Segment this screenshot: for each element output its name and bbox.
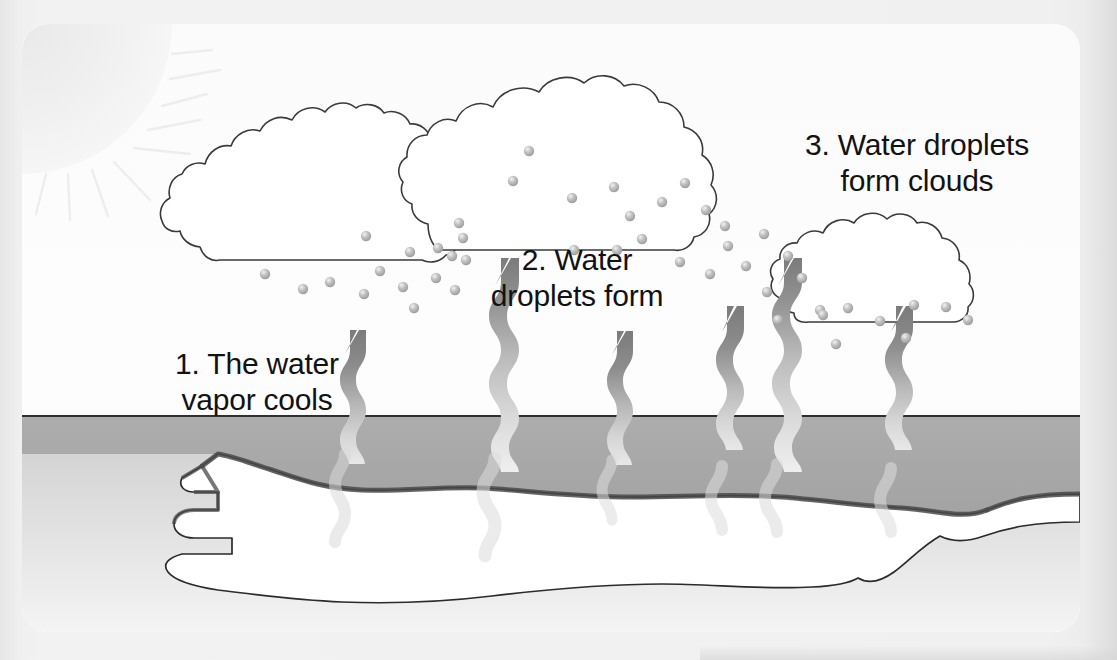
illustration-panel: 1. The water vapor cools 2. Water drople… — [22, 24, 1080, 632]
step-3-label: 3. Water droplets form clouds — [757, 127, 1077, 199]
step-1-label: 1. The water vapor cools — [142, 346, 372, 418]
water-cycle-artwork — [22, 24, 1080, 632]
illustration-screenshot: 1. The water vapor cools 2. Water drople… — [0, 0, 1117, 660]
center-cloud — [399, 76, 717, 251]
step-2-label: 2. Water droplets form — [452, 242, 702, 314]
